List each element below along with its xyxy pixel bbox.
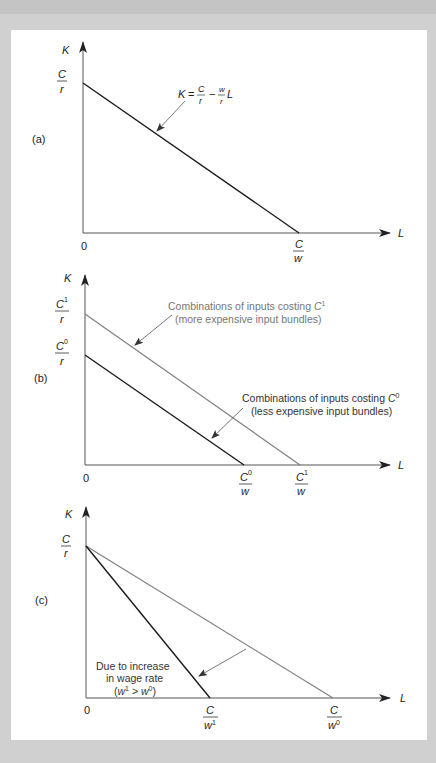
origin-label: 0 — [84, 704, 90, 716]
svg-text:C: C — [198, 84, 205, 94]
svg-text:C: C — [206, 704, 214, 716]
panel-a: K L 0 (a) C r C w K = C r − w r L — [32, 42, 404, 264]
svg-text:Due to increase: Due to increase — [96, 660, 170, 672]
svg-text:w0: w0 — [328, 719, 340, 731]
svg-text:(more expensive input bundles): (more expensive input bundles) — [175, 313, 322, 325]
svg-text:=: = — [188, 88, 194, 100]
origin-label: 0 — [81, 240, 87, 252]
y-axis-label: K — [64, 272, 72, 284]
svg-text:r: r — [220, 97, 223, 106]
svg-text:Combinations of inputs costing: Combinations of inputs costing C0 — [242, 392, 400, 404]
y-intercept-label-c1: C 1 r — [55, 296, 69, 325]
svg-text:w: w — [297, 485, 306, 497]
svg-text:C: C — [330, 704, 338, 716]
panel-tag: (a) — [32, 133, 45, 145]
svg-text:r: r — [60, 355, 65, 367]
svg-text:C: C — [62, 533, 70, 545]
x-intercept-label-w1: C w1 — [203, 704, 218, 731]
svg-text:r: r — [60, 83, 65, 95]
svg-text:L: L — [227, 88, 233, 100]
svg-text:0: 0 — [248, 469, 252, 476]
svg-text:Combinations of inputs costing: Combinations of inputs costing C1 — [168, 300, 326, 312]
svg-text:C: C — [56, 298, 64, 310]
y-axis-label: K — [62, 44, 70, 56]
svg-text:r: r — [64, 547, 69, 559]
svg-text:C: C — [296, 471, 304, 483]
isocost-figure: K L 0 (a) C r C w K = C r − w r L — [0, 0, 436, 763]
svg-text:r: r — [60, 313, 65, 325]
wage-increase-annotation: Due to increase in wage rate (w1 > w0) — [96, 660, 170, 697]
svg-text:(w1 > w0): (w1 > w0) — [114, 685, 156, 697]
x-axis-label: L — [398, 459, 404, 471]
svg-text:w: w — [219, 85, 226, 94]
svg-text:(less expensive input bundles): (less expensive input bundles) — [251, 405, 392, 417]
y-axis-label: K — [65, 508, 73, 520]
annotation-c0: Combinations of inputs costing C0 (less … — [242, 392, 400, 417]
equation-label: K = C r − w r L — [178, 84, 233, 106]
y-intercept-label-c0: C 0 r — [55, 338, 69, 367]
annotation-c0-pointer-arrow — [212, 408, 243, 438]
svg-text:w1: w1 — [204, 719, 216, 731]
svg-text:1: 1 — [64, 296, 68, 303]
svg-text:C: C — [295, 238, 303, 250]
svg-text:C: C — [240, 471, 248, 483]
x-axis-label: L — [398, 227, 404, 239]
origin-label: 0 — [83, 472, 89, 484]
svg-text:in wage rate: in wage rate — [106, 672, 163, 684]
isocost-line-c0 — [85, 355, 244, 465]
rotation-pointer-arrow — [199, 649, 246, 676]
panel-b: K L 0 (b) C 1 r C 0 r C 0 w C 1 w — [34, 272, 404, 497]
panel-tag: (c) — [35, 594, 48, 606]
panel-c: K L 0 (c) C r C w1 C w0 Due to increase … — [35, 507, 406, 731]
x-axis-label: L — [400, 692, 406, 704]
svg-text:w: w — [241, 485, 250, 497]
svg-text:0: 0 — [64, 338, 68, 345]
svg-text:w: w — [294, 252, 303, 264]
svg-text:K: K — [178, 88, 186, 100]
svg-text:1: 1 — [304, 469, 308, 476]
isocost-line-c1 — [85, 314, 300, 465]
x-intercept-label-c1: C 1 w — [295, 469, 308, 497]
svg-text:C: C — [58, 68, 66, 80]
x-intercept-label: C w — [293, 238, 304, 264]
svg-text:C: C — [56, 340, 64, 352]
svg-text:−: − — [209, 88, 215, 100]
x-intercept-label-w0: C w0 — [327, 704, 342, 731]
y-intercept-label: C r — [57, 68, 67, 95]
svg-text:r: r — [199, 96, 203, 106]
panel-tag: (b) — [34, 372, 47, 384]
isocost-line — [83, 83, 299, 233]
x-intercept-label-c0: C 0 w — [239, 469, 252, 497]
equation-pointer-arrow — [157, 101, 185, 131]
y-intercept-label: C r — [61, 533, 71, 559]
annotation-c1-pointer-arrow — [135, 315, 172, 345]
annotation-c1: Combinations of inputs costing C1 (more … — [168, 300, 326, 325]
